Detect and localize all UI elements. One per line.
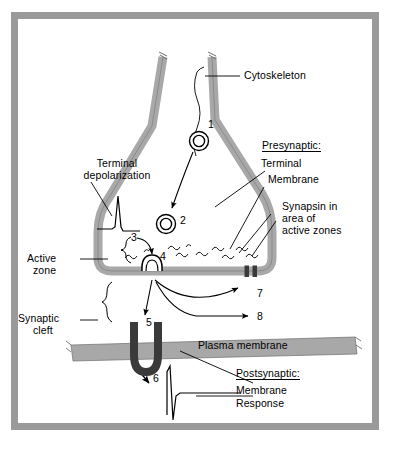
label-terminal-depolarization-line2: depolarization: [70, 170, 164, 182]
callout-6: 6: [153, 372, 159, 384]
cytoskeleton-tip-icon: [197, 67, 204, 72]
label-postsynaptic-response: Response: [236, 398, 284, 410]
heading-presynaptic: Presynaptic:: [262, 140, 321, 152]
label-plasma-membrane: Plasma membrane: [198, 340, 288, 352]
curly-brace-icon: [102, 282, 112, 322]
label-synapsin-line3: active zones: [282, 225, 342, 237]
label-synaptic-cleft-line2: cleft: [33, 325, 53, 337]
label-active-zone-line2: zone: [33, 265, 56, 277]
label-cytoskeleton: Cytoskeleton: [244, 70, 306, 82]
callout-8: 8: [257, 310, 263, 322]
arrow-icon: [145, 280, 152, 315]
synaptic-vesicle-icon: [190, 132, 209, 151]
curly-brace-icon: [121, 237, 131, 263]
heading-postsynaptic-text: Postsynaptic:: [236, 368, 300, 380]
label-synapsin-line2: area of: [282, 213, 315, 225]
epsp-waveform-icon: [167, 366, 240, 420]
callout-5: 5: [146, 316, 152, 328]
callout-1: 1: [208, 118, 214, 130]
arrow-icon: [155, 280, 238, 297]
label-synaptic-cleft-line1: Synaptic: [18, 313, 59, 325]
heading-presynaptic-text: Presynaptic:: [262, 140, 321, 152]
synapsin-squiggle-icon: [125, 245, 258, 259]
label-active-zone-line1: Active: [27, 253, 56, 265]
callout-3: 3: [131, 231, 137, 243]
membrane-break-left-icon: [66, 341, 71, 352]
callout-2: 2: [180, 214, 186, 226]
label-terminal-depolarization-line1: Terminal: [80, 158, 154, 170]
label-synapsin-line1: Synapsin in: [282, 201, 337, 213]
callout-4: 4: [160, 250, 166, 262]
callout-7: 7: [257, 287, 263, 299]
figure-page: Cytoskeleton Presynaptic: Terminal Membr…: [0, 0, 396, 455]
label-presynaptic-membrane: Membrane: [268, 174, 319, 186]
arrow-icon: [156, 282, 248, 316]
heading-postsynaptic: Postsynaptic:: [236, 368, 300, 380]
label-postsynaptic-membrane: Membrane: [236, 385, 287, 397]
arrow-icon: [172, 152, 193, 208]
label-presynaptic-terminal: Terminal: [261, 158, 301, 170]
synaptic-vesicle-icon: [157, 215, 176, 234]
